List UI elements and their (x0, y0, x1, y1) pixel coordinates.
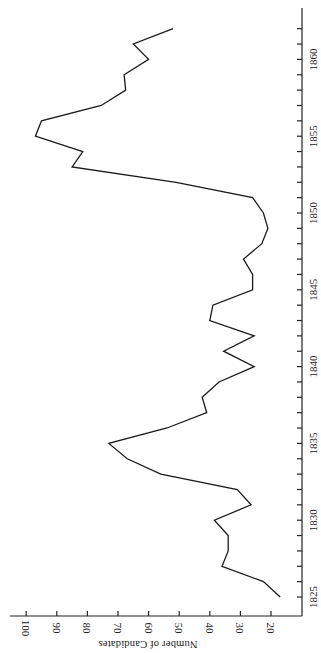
value-tick-label: 30 (234, 623, 246, 635)
year-axis-ticks: 18251830183518401845185018551860 (297, 29, 319, 608)
value-axis-ticks: 2030405060708090100 (20, 611, 277, 637)
value-tick-label: 80 (81, 623, 93, 635)
value-tick-label: 70 (112, 623, 124, 635)
year-tick-label: 1850 (307, 202, 319, 225)
line-chart: 18251830183518401845185018551860 2030405… (0, 0, 321, 653)
year-tick-label: 1845 (307, 278, 319, 301)
year-tick-label: 1860 (307, 48, 319, 71)
year-tick-label: 1840 (307, 355, 319, 378)
value-tick-label: 60 (143, 623, 155, 635)
candidates-series-line (35, 29, 280, 597)
year-tick-label: 1855 (307, 125, 319, 148)
value-tick-label: 100 (20, 620, 32, 637)
year-tick-label: 1835 (307, 432, 319, 455)
value-tick-label: 90 (51, 623, 63, 635)
value-tick-label: 40 (204, 623, 216, 635)
year-tick-label: 1830 (307, 509, 319, 532)
value-tick-label: 20 (265, 623, 277, 635)
value-tick-label: 50 (173, 623, 185, 635)
value-axis-title: Number of Candidates (98, 639, 197, 650)
year-tick-label: 1825 (307, 586, 319, 609)
